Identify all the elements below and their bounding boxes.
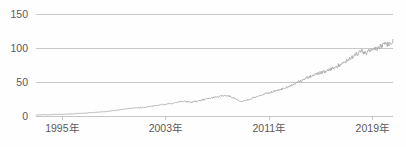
x-axis-tick-label: 2011年: [253, 122, 286, 134]
x-axis-tick-label: 2003年: [149, 122, 182, 134]
chart-canvas: 050100150 1995年2003年2011年2019年: [0, 0, 406, 147]
series-line: [36, 39, 393, 115]
y-axis-tick-label: 50: [16, 76, 28, 88]
y-axis-tick-label: 100: [10, 42, 28, 54]
y-axis-tick-label: 150: [10, 8, 28, 20]
x-axis-tick-labels: 1995年2003年2011年2019年: [45, 122, 389, 134]
data-series-group: [36, 39, 393, 115]
line-chart: 050100150 1995年2003年2011年2019年: [0, 0, 406, 147]
x-axis-tick-label: 2019年: [356, 122, 389, 134]
y-axis-tick-labels: 050100150: [10, 8, 28, 122]
y-axis-tick-label: 0: [22, 110, 28, 122]
x-axis-tick-label: 1995年: [45, 122, 78, 134]
